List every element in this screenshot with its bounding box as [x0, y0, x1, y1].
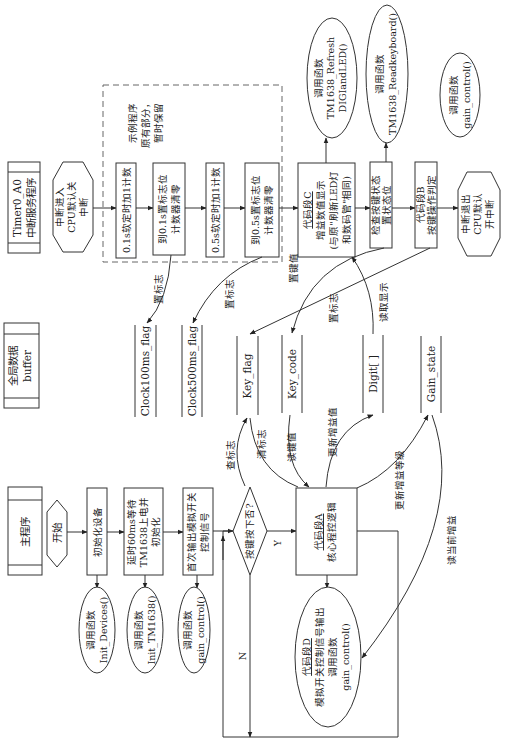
- isr-step4: 到0.5s置标志位 计数器清零: [245, 163, 279, 257]
- svg-text:置标志: 置标志: [224, 279, 235, 309]
- svg-text:Init_Devices(): Init_Devices(): [98, 597, 110, 663]
- svg-text:计数器清零: 计数器清零: [263, 185, 274, 235]
- svg-text:首次输出模拟开关: 首次输出模拟开关: [186, 492, 197, 572]
- flowchart-canvas: 全局数据 buffer Timer0_A0 中断服务程序 中断进入 CPU默认关…: [0, 0, 508, 752]
- svg-text:更新增益值: 更新增益值: [327, 407, 338, 457]
- svg-text:原有部分，: 原有部分，: [140, 98, 151, 148]
- svg-text:代码段D: 代码段D: [301, 638, 312, 676]
- svg-text:TM1638_Refresh: TM1638_Refresh: [325, 37, 337, 119]
- svg-text:0.5s软定时加1计数: 0.5s软定时加1计数: [210, 167, 221, 253]
- store-key-flag: Key_flag: [237, 336, 258, 415]
- cloud-init-devices: 调用函数 Init_Devices(): [79, 587, 115, 673]
- cloud-init-tm1638: 调用函数 Init_TM1638(): [127, 587, 163, 673]
- cloud-readkeyboard: 调用函数 TM1638_Readkeyboard(): [366, 5, 408, 143]
- svg-text:TM1638上电并: TM1638上电并: [138, 497, 149, 567]
- svg-text:按键按下否?: 按键按下否?: [244, 503, 255, 558]
- isr-header-line1: Timer0_A0: [11, 179, 24, 237]
- svg-text:代码段A: 代码段A: [313, 513, 324, 550]
- svg-text:初始化设备: 初始化设备: [92, 507, 103, 557]
- svg-text:开始: 开始: [51, 522, 63, 543]
- svg-text:gain_control(): gain_control(): [461, 61, 473, 128]
- delay-box: 延时60ms等待 TM1638上电并 初始化: [124, 488, 163, 575]
- svg-text:中断进入: 中断进入: [54, 187, 65, 227]
- code-segment-a: 代码段A 核心程控逻辑: [296, 488, 357, 575]
- global-data-box: 全局数据 buffer: [4, 323, 39, 408]
- svg-text:读当前增益: 读当前增益: [446, 515, 457, 565]
- isr-step1: 0.1s软定时加1计数: [116, 163, 136, 258]
- svg-text:代码段C: 代码段C: [302, 191, 313, 228]
- store-clock500: Clock500ms_flag: [182, 325, 202, 417]
- svg-text:暂时保留: 暂时保留: [153, 103, 164, 143]
- key-pressed-decision: 按键按下否?: [233, 487, 267, 575]
- init-devices-box: 初始化设备: [87, 488, 107, 575]
- svg-text:Clock500ms_flag: Clock500ms_flag: [186, 325, 199, 416]
- svg-text:(与原"刷新LED灯: (与原"刷新LED灯: [328, 171, 339, 250]
- svg-text:调用函数: 调用函数: [374, 54, 385, 94]
- isr-header-line2: 中断服务程序: [25, 178, 37, 238]
- svg-text:置标志: 置标志: [328, 293, 339, 323]
- store-digit: Digit[ ]: [363, 335, 383, 413]
- svg-text:控制信号: 控制信号: [199, 512, 210, 552]
- svg-text:主程序: 主程序: [19, 517, 31, 547]
- cloud-refresh: 调用函数 TM1638_Refresh DIGIandLED(): [307, 18, 357, 138]
- svg-text:核心程控逻辑: 核心程控逻辑: [326, 502, 337, 562]
- isr-header-box: Timer0_A0 中断服务程序: [8, 162, 40, 253]
- svg-text:示例程序: 示例程序: [127, 103, 138, 143]
- svg-text:0.1s软定时加1计数: 0.1s软定时加1计数: [121, 167, 132, 253]
- svg-text:TM1638_Readkeyboard(): TM1638_Readkeyboard(): [387, 13, 399, 135]
- svg-text:Y: Y: [272, 539, 283, 547]
- svg-text:调用函数: 调用函数: [313, 58, 324, 98]
- global-data-label: 全局数据: [7, 345, 19, 386]
- svg-text:增益数值显示: 增益数值显示: [315, 180, 326, 240]
- svg-text:Init_TM1638(): Init_TM1638(): [146, 595, 158, 664]
- check-key-state: 检查按键状态 置状态位: [370, 162, 392, 248]
- svg-text:Digit[ ]: Digit[ ]: [367, 355, 379, 393]
- svg-text:置键值: 置键值: [288, 253, 299, 283]
- svg-text:置标志: 置标志: [153, 274, 164, 304]
- svg-text:调用函数: 调用函数: [327, 637, 338, 677]
- svg-text:和数码管"相同): 和数码管"相同): [341, 176, 352, 244]
- cloud-gain-control-main: 调用函数 gain_control(): [178, 587, 210, 673]
- svg-text:到0.1s置标志位: 到0.1s置标志位: [157, 174, 168, 244]
- svg-text:更新增益等级: 更新增益等级: [394, 450, 405, 510]
- svg-text:按键操作判定: 按键操作判定: [426, 175, 437, 235]
- svg-text:中断退出: 中断退出: [460, 194, 471, 234]
- svg-text:Key_code: Key_code: [286, 349, 299, 399]
- svg-text:调用函数: 调用函数: [182, 610, 193, 650]
- isr-step3: 0.5s软定时加1计数: [206, 163, 224, 257]
- code-segment-c: 代码段C 增益数值显示 (与原"刷新LED灯 和数码管"相同): [298, 163, 355, 257]
- svg-text:DIGIandLED(): DIGIandLED(): [337, 44, 348, 113]
- svg-text:gain_control(): gain_control(): [195, 596, 207, 663]
- svg-text:清标志: 清标志: [256, 429, 267, 459]
- code-segment-b: 代码段B 按键操作判定: [415, 162, 437, 248]
- isr-exit-hexagon: 中断退出 CPU默认 开中断: [458, 172, 500, 256]
- svg-text:读键值: 读键值: [286, 432, 297, 462]
- svg-text:gain_control(): gain_control(): [340, 623, 352, 690]
- svg-text:延时60ms等待: 延时60ms等待: [126, 499, 137, 565]
- code-segment-d-cloud: 代码段D 模拟开关控制信号输出 调用函数 gain_control(): [295, 587, 361, 727]
- first-output-box: 首次输出模拟开关 控制信号: [183, 488, 213, 575]
- svg-text:到0.5s置标志位: 到0.5s置标志位: [250, 175, 261, 245]
- store-clock100: Clock100ms_flag: [135, 325, 156, 417]
- isr-enter-hexagon: 中断进入 CPU默认关 中断: [53, 162, 93, 252]
- svg-text:代码段B: 代码段B: [415, 186, 426, 223]
- svg-text:置状态位: 置状态位: [381, 185, 392, 225]
- svg-text:调用函数: 调用函数: [85, 610, 96, 650]
- svg-text:CPU默认: CPU默认: [472, 193, 483, 235]
- svg-text:模拟开关控制信号输出: 模拟开关控制信号输出: [314, 607, 325, 707]
- svg-text:N: N: [237, 652, 248, 660]
- store-key-code: Key_code: [282, 335, 302, 413]
- store-gain-state: Gain_state: [421, 336, 441, 413]
- svg-text:开中断: 开中断: [484, 199, 495, 229]
- svg-text:Key_flag: Key_flag: [241, 353, 254, 398]
- cloud-gain-control-isr: 调用函数 gain_control(): [440, 53, 480, 137]
- svg-text:检查按键状态: 检查按键状态: [370, 175, 381, 235]
- svg-text:Gain_state: Gain_state: [425, 346, 438, 402]
- svg-text:读取显示: 读取显示: [378, 282, 389, 322]
- svg-text:Clock100ms_flag: Clock100ms_flag: [139, 325, 152, 416]
- svg-text:中断: 中断: [78, 197, 89, 217]
- svg-text:初始化: 初始化: [150, 517, 161, 547]
- svg-text:CPU默认关: CPU默认关: [66, 181, 77, 233]
- isr-step2: 到0.1s置标志位 计数器清零: [153, 163, 185, 255]
- svg-text:调用函数: 调用函数: [133, 610, 144, 650]
